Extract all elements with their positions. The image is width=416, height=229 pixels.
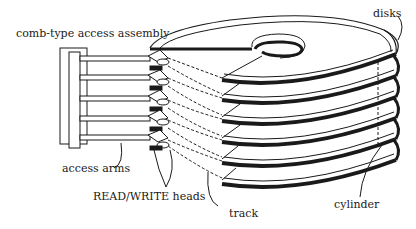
label-track: track [229, 208, 258, 219]
head-4 [148, 110, 169, 131]
label-comb-assembly: comb-type access assembly [16, 28, 169, 39]
disk-pack-diagram: comb-type access assembly disks access a… [0, 0, 416, 229]
label-disks: disks [373, 8, 402, 19]
head-1 [148, 50, 169, 70]
track-lines [168, 58, 222, 178]
disk-stack [150, 16, 399, 187]
label-cylinder: cylinder [334, 199, 379, 210]
head-5 [148, 130, 169, 150]
comb-assembly [60, 48, 150, 148]
read-write-heads [148, 50, 169, 150]
disk-1 [222, 30, 398, 83]
head-3 [148, 90, 169, 111]
access-arms [80, 56, 150, 140]
label-access-arms: access arms [62, 163, 130, 174]
label-read-write-heads: READ/WRITE heads [93, 191, 205, 202]
head-2 [148, 70, 169, 90]
